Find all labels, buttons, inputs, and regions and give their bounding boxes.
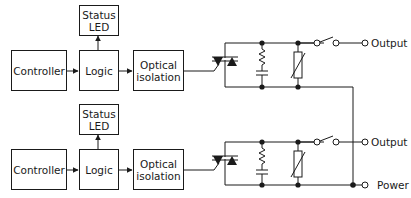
status-led-label: Status LED [82, 9, 115, 33]
logic-label: Logic [85, 164, 112, 176]
controller-label: Controller [13, 65, 65, 77]
logic-box-2: Logic [79, 149, 119, 190]
status-led-box-2: Status LED [79, 104, 119, 135]
controller-box-2: Controller [11, 149, 67, 190]
status-led-label: Status LED [82, 108, 115, 132]
logic-label: Logic [85, 65, 112, 77]
terminal-circles [314, 40, 368, 188]
controller-box-1: Controller [11, 50, 67, 91]
controller-label: Controller [13, 164, 65, 176]
output-label-1: Output [371, 37, 407, 49]
status-led-box-1: Status LED [79, 5, 119, 36]
junction-dots [259, 40, 355, 187]
optical-isolation-box-2: Optical isolation [133, 149, 184, 190]
logic-box-1: Logic [79, 50, 119, 91]
optical-isolation-box-1: Optical isolation [133, 50, 184, 91]
power-label: Power [377, 179, 409, 191]
output-label-2: Output [371, 136, 407, 148]
optical-isolation-label: Optical isolation [136, 158, 180, 182]
optical-isolation-label: Optical isolation [136, 59, 180, 83]
